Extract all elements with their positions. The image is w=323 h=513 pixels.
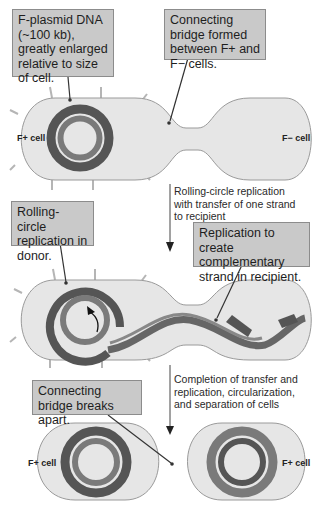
f-minus-cell-label: F− cell bbox=[282, 133, 310, 143]
callout-bridge-breaks: Connecting bridge breaks apart. bbox=[32, 380, 142, 415]
callout-complementary-strand: Replication to create complementary stra… bbox=[193, 222, 310, 267]
arrow-down-icon bbox=[166, 242, 174, 252]
callout-connecting-bridge: Connecting bridge formed between F+ and … bbox=[164, 9, 266, 60]
step1-note: Rolling-circle replication with transfer… bbox=[174, 185, 304, 223]
callout-rolling-circle: Rolling-circle replication in donor. bbox=[11, 201, 94, 246]
f-plus-cell-label: F+ cell bbox=[17, 133, 45, 143]
f-plus-cell-label-left: F+ cell bbox=[28, 458, 56, 468]
arrow-down-icon bbox=[166, 426, 174, 435]
stage1-cells bbox=[10, 58, 311, 190]
callout-f-plasmid: F-plasmid DNA (~100 kb), greatly enlarge… bbox=[12, 9, 114, 77]
f-plus-cell-label-right: F+ cell bbox=[282, 458, 310, 468]
step2-note: Completion of transfer and replication, … bbox=[174, 373, 314, 411]
